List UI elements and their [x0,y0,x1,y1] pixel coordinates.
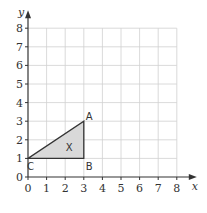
vertex-label-a: A [86,111,93,122]
x-axis-label: x [192,180,199,193]
y-tick-label: 2 [16,134,23,147]
y-tick-label: 8 [16,22,23,35]
x-tick-label: 8 [173,182,180,195]
shape-label: X [66,142,73,153]
x-tick-label: 4 [99,182,106,195]
x-tick-label: 6 [136,182,143,195]
x-tick-label: 7 [155,182,162,195]
y-tick-label: 5 [16,78,23,91]
y-tick-label: 0 [16,171,23,184]
coordinate-grid: XABC012345678012345678xy [0,0,207,213]
x-tick-label: 0 [25,182,32,195]
y-axis-label: y [17,6,25,19]
y-tick-label: 1 [16,152,23,165]
y-tick-label: 3 [16,115,23,128]
x-tick-label: 5 [118,182,125,195]
vertex-label-b: B [86,161,93,172]
x-tick-label: 3 [80,182,87,195]
y-axis-arrow-icon [25,10,31,18]
y-tick-label: 4 [16,97,23,110]
x-tick-label: 2 [62,182,69,195]
y-tick-label: 7 [16,41,23,54]
y-tick-label: 6 [16,59,23,72]
x-tick-label: 1 [43,182,50,195]
